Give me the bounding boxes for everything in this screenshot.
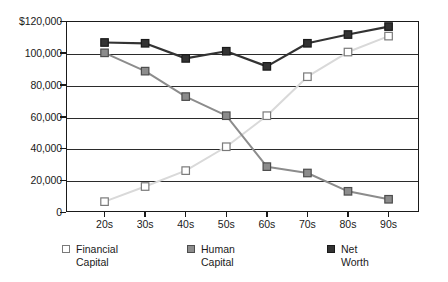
x-tick-label: 50s (206, 219, 246, 230)
x-tick-label: 60s (247, 219, 287, 230)
line-chart: 020,00040,00060,00080,000100,000$120,000… (0, 0, 448, 282)
financial-capital-swatch (62, 245, 70, 253)
legend-label: Net Worth (341, 243, 369, 269)
net-worth-swatch (327, 245, 335, 253)
x-tick-mark (144, 212, 146, 217)
legend-item-financial-capital[interactable]: Financial Capital (62, 243, 118, 269)
x-axis: 20s30s40s50s60s70s80s90s (0, 0, 448, 282)
x-tick-label: 70s (287, 219, 327, 230)
x-tick-mark (388, 212, 390, 217)
x-tick-label: 40s (166, 219, 206, 230)
x-tick-mark (266, 212, 268, 217)
x-tick-label: 30s (125, 219, 165, 230)
legend-label: Financial Capital (76, 243, 118, 269)
x-tick-mark (104, 212, 106, 217)
x-tick-label: 80s (328, 219, 368, 230)
legend-label: Human Capital (201, 243, 235, 269)
legend-item-human-capital[interactable]: Human Capital (187, 243, 235, 269)
x-tick-mark (226, 212, 228, 217)
x-tick-mark (347, 212, 349, 217)
chart-legend: Financial CapitalHuman CapitalNet Worth (62, 243, 448, 281)
x-tick-label: 90s (369, 219, 409, 230)
human-capital-swatch (187, 245, 195, 253)
x-tick-mark (185, 212, 187, 217)
x-tick-mark (307, 212, 309, 217)
legend-item-net-worth[interactable]: Net Worth (327, 243, 369, 269)
x-tick-label: 20s (85, 219, 125, 230)
